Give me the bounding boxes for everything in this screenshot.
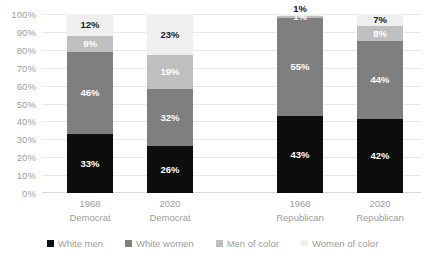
chart-legend: White menWhite womenMen of colorWomen of…: [0, 238, 425, 249]
legend-swatch-icon: [47, 240, 54, 247]
y-axis-tick-label: 90%: [17, 26, 36, 37]
bar-segment[interactable]: 23%: [147, 14, 193, 55]
bar-segment-label: 23%: [160, 30, 179, 40]
bar-segment-label: 26%: [160, 165, 179, 175]
bar-segment[interactable]: 1%: [277, 14, 323, 16]
bar-segment-label: 1%: [293, 4, 307, 14]
legend-item[interactable]: White women: [125, 238, 194, 249]
category-party: Republican: [257, 211, 343, 225]
stacked-bar[interactable]: 26%32%19%23%: [147, 14, 193, 193]
bar-segment-label: 7%: [373, 15, 387, 25]
y-axis-tick-label: 80%: [17, 44, 36, 55]
bar-segment-label: 46%: [80, 88, 99, 98]
category-year: 1968: [47, 197, 133, 211]
category-year: 2020: [337, 197, 423, 211]
bar-group[interactable]: 26%32%19%23%: [147, 14, 193, 193]
bar-segment-label: 9%: [83, 39, 97, 49]
bar-segment[interactable]: 26%: [147, 146, 193, 193]
y-axis-tick-label: 60%: [17, 80, 36, 91]
bar-segment-label: 43%: [290, 150, 309, 160]
y-axis: 0%10%20%30%40%50%60%70%80%90%100%: [0, 14, 36, 193]
legend-swatch-icon: [125, 240, 132, 247]
y-axis-tick-label: 100%: [11, 9, 36, 20]
bar-segment-label: 44%: [370, 75, 389, 85]
bar-segment-label: 19%: [160, 67, 179, 77]
category-party: Republican: [337, 211, 423, 225]
stacked-bar[interactable]: 33%46%9%12%: [67, 14, 113, 193]
bar-segment[interactable]: 1%: [277, 16, 323, 18]
bar-segment[interactable]: 8%: [357, 26, 403, 40]
bar-segment[interactable]: 32%: [147, 89, 193, 146]
category-year: 2020: [127, 197, 213, 211]
legend-swatch-icon: [301, 240, 308, 247]
x-axis-category-label: 2020Democrat: [127, 197, 213, 225]
legend-item[interactable]: White men: [47, 238, 103, 249]
legend-label: White women: [136, 238, 194, 249]
x-axis-category-label: 1968Democrat: [47, 197, 133, 225]
bar-segment[interactable]: 9%: [67, 36, 113, 52]
legend-label: Men of color: [227, 238, 279, 249]
y-axis-tick-label: 20%: [17, 152, 36, 163]
y-axis-tick-label: 10%: [17, 170, 36, 181]
bar-group[interactable]: 43%55%1%1%: [277, 14, 323, 193]
x-axis-category-label: 2020Republican: [337, 197, 423, 225]
bar-segment[interactable]: 42%: [357, 119, 403, 193]
bar-segment-label: 8%: [373, 29, 387, 39]
y-axis-tick-label: 70%: [17, 62, 36, 73]
x-axis-category-label: 1968Republican: [257, 197, 343, 225]
legend-item[interactable]: Women of color: [301, 238, 378, 249]
bar-group[interactable]: 33%46%9%12%: [67, 14, 113, 193]
bar-segment[interactable]: 12%: [67, 14, 113, 35]
legend-item[interactable]: Men of color: [216, 238, 279, 249]
bar-segment-label: 33%: [80, 159, 99, 169]
category-party: Democrat: [127, 211, 213, 225]
bar-segment-label: 32%: [160, 113, 179, 123]
stacked-bar[interactable]: 43%55%1%1%: [277, 14, 323, 193]
bar-segment[interactable]: 19%: [147, 55, 193, 89]
bar-segment[interactable]: 43%: [277, 116, 323, 193]
stacked-bar-chart: 0%10%20%30%40%50%60%70%80%90%100% 33%46%…: [0, 0, 425, 262]
legend-label: White men: [58, 238, 103, 249]
bar-group[interactable]: 42%44%8%7%: [357, 14, 403, 193]
bar-segment[interactable]: 46%: [67, 52, 113, 134]
bar-segment[interactable]: 55%: [277, 18, 323, 116]
legend-label: Women of color: [312, 238, 378, 249]
bar-segment-label: 55%: [290, 62, 309, 72]
category-party: Democrat: [47, 211, 133, 225]
y-axis-tick-label: 30%: [17, 134, 36, 145]
bar-segment[interactable]: 7%: [357, 14, 403, 26]
legend-swatch-icon: [216, 240, 223, 247]
y-axis-tick-label: 50%: [17, 98, 36, 109]
plot-area: 33%46%9%12%26%32%19%23%43%55%1%1%42%44%8…: [42, 14, 421, 193]
y-axis-tick-label: 0%: [22, 188, 36, 199]
stacked-bar[interactable]: 42%44%8%7%: [357, 14, 403, 193]
bar-segment-label: 12%: [80, 20, 99, 30]
y-axis-tick-label: 40%: [17, 116, 36, 127]
category-year: 1968: [257, 197, 343, 211]
bar-segment-label: 42%: [370, 151, 389, 161]
bar-segment[interactable]: 44%: [357, 41, 403, 119]
bar-segment[interactable]: 33%: [67, 134, 113, 193]
